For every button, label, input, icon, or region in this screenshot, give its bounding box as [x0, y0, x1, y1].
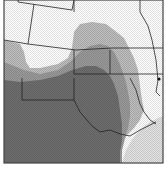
dither-texture	[4, 0, 163, 163]
city-dot	[157, 77, 160, 80]
map	[0, 0, 167, 174]
